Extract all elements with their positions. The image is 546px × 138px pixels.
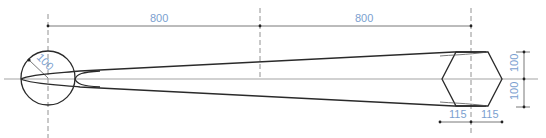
- dimension-tick-bottom-left: [439, 121, 442, 124]
- technical-drawing: 800 800 100 100 100 115 115: [0, 0, 546, 138]
- beam-inner-lower: [75, 79, 100, 87]
- beam-inner-upper: [75, 71, 100, 79]
- dimension-tick-right: [470, 25, 473, 28]
- dimension-tick-middle: [259, 25, 262, 28]
- radius-arrow-head: [27, 58, 30, 61]
- dimension-tick-left: [47, 25, 50, 28]
- dimension-tick-bottom-right: [501, 121, 504, 124]
- dimension-label-left-span: 800: [150, 12, 168, 24]
- dimension-tick-vertical-bottom: [523, 106, 526, 109]
- dimension-tick-vertical-top: [523, 51, 526, 54]
- dimension-tick-bottom-mid: [470, 121, 473, 124]
- dimension-label-right-span: 800: [355, 12, 373, 24]
- dimension-label-hex-upper: 100: [508, 54, 520, 72]
- beam-lower-edge: [21, 79, 486, 106]
- beam-upper-edge: [21, 52, 486, 79]
- dimension-label-hex-left-width: 115: [449, 108, 467, 120]
- dimension-label-hex-right-width: 115: [481, 108, 499, 120]
- dimension-label-radius: 100: [35, 51, 56, 72]
- dimension-tick-vertical-mid: [523, 78, 526, 81]
- dimension-label-hex-lower: 100: [508, 82, 520, 100]
